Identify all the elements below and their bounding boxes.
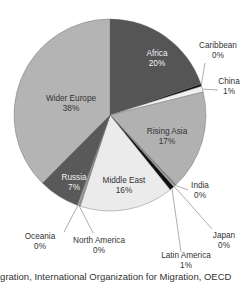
slice-value-wider-europe: 38% (63, 104, 79, 113)
slice-value-latin-america: 1% (180, 261, 192, 270)
leader-line-caribbean (201, 63, 205, 85)
leader-line-latin-america (172, 188, 181, 252)
leader-line-china (202, 89, 218, 90)
slice-value-india: 0% (194, 191, 206, 200)
slice-value-china: 1% (223, 87, 235, 96)
slice-value-middle-east: 16% (116, 186, 132, 195)
pie-chart: Africa20%Caribbean0%China1%Rising Asia17… (0, 0, 251, 283)
leader-line-india (175, 185, 188, 190)
slice-value-rising-asia: 17% (159, 137, 175, 146)
slice-value-caribbean: 0% (212, 51, 224, 60)
leader-line-oceania (64, 205, 78, 232)
leader-line-north-america (79, 206, 93, 233)
slice-value-japan: 0% (218, 241, 230, 250)
slice-value-russia: 7% (68, 183, 80, 192)
slice-label-wider-europe: Wider Europe (46, 94, 97, 103)
slice-label-rising-asia: Rising Asia (147, 127, 188, 136)
slice-label-japan: Japan (213, 231, 236, 240)
slice-value-oceania: 0% (34, 242, 46, 251)
slice-label-middle-east: Middle East (103, 176, 147, 185)
slice-label-china: China (218, 77, 240, 86)
slice-label-oceania: Oceania (25, 232, 56, 241)
slice-label-latin-america: Latin America (161, 251, 211, 260)
slice-label-caribbean: Caribbean (199, 41, 237, 50)
slice-value-north-america: 0% (93, 246, 105, 255)
slice-label-india: India (191, 181, 209, 190)
slice-label-russia: Russia (61, 173, 86, 182)
source-caption: igration, International Organization for… (0, 271, 251, 283)
slice-label-africa: Africa (147, 49, 168, 58)
slice-value-africa: 20% (149, 59, 165, 68)
slice-label-north-america: North America (73, 236, 125, 245)
